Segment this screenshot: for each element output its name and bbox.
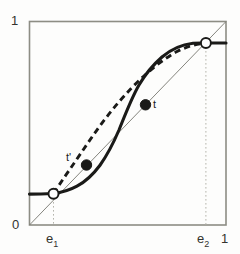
point-t-marker [140,100,150,110]
x-axis-label-e2: e2 [197,232,209,249]
figure-container: 1 0 e1 e2 1 t t' [0,0,240,254]
x-axis-label-e1: e1 [46,232,58,249]
x-axis-label-e1-subscript: 1 [53,239,58,249]
origin-label: 0 [12,218,19,231]
y-axis-max-label: 1 [11,14,18,27]
x-axis-label-e2-subscript: 2 [204,239,209,249]
fixed-point-e2-marker [201,38,211,48]
fixed-point-e1-marker [49,189,59,199]
point-t-prime-label: t' [66,152,71,163]
x-axis-max-label: 1 [221,232,228,245]
phase-diagram-plot [0,0,240,254]
point-t-label: t [153,99,156,110]
point-t-prime-marker [81,160,91,170]
sigmoid-curve [30,43,227,194]
